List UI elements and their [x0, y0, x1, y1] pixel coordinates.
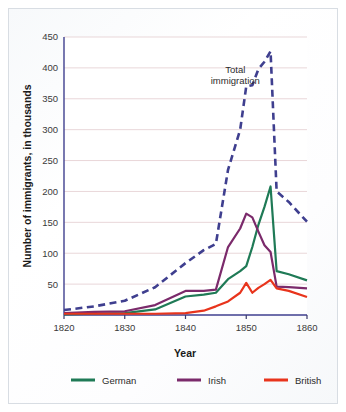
chart-legend: GermanIrishBritish — [71, 375, 321, 386]
y-tick-label: 450 — [42, 31, 58, 42]
x-tick-label: 1860 — [296, 322, 317, 333]
y-tick-label: 300 — [42, 124, 58, 135]
y-tick-label: 50 — [47, 279, 58, 290]
x-tick-label: 1850 — [236, 322, 257, 333]
y-tick-label: 200 — [42, 186, 58, 197]
x-tick-label: 1830 — [114, 322, 135, 333]
y-tick-label: 400 — [42, 62, 58, 73]
chart-svg: 50100150200250300350400450 1820183018401… — [9, 9, 338, 404]
figure-card: 50100150200250300350400450 1820183018401… — [8, 8, 338, 404]
y-tick-label: 350 — [42, 93, 58, 104]
x-tick-label: 1840 — [175, 322, 196, 333]
annotation-line-2: immigration — [211, 75, 260, 86]
y-axis-title: Number of immigrants, in thousands — [21, 84, 33, 267]
y-tick-label: 250 — [42, 155, 58, 166]
legend-label-german: German — [102, 375, 136, 386]
x-tick-label: 1820 — [53, 322, 74, 333]
x-axis-tick-labels: 18201830184018501860 — [53, 315, 317, 333]
immigration-line-chart: 50100150200250300350400450 1820183018401… — [9, 9, 338, 404]
y-axis-tick-labels: 50100150200250300350400450 — [42, 31, 58, 289]
legend-label-irish: Irish — [208, 375, 226, 386]
y-tick-label: 100 — [42, 248, 58, 259]
annotation-line-1: Total — [225, 64, 245, 75]
y-tick-label: 150 — [42, 217, 58, 228]
legend-label-british: British — [295, 375, 321, 386]
x-axis-title: Year — [174, 347, 196, 359]
